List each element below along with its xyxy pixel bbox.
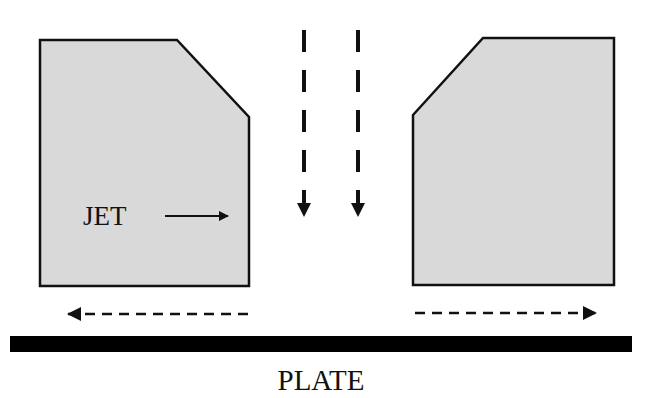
- plate-bar: [10, 336, 632, 352]
- jet-plate-diagram: JET PLATE: [0, 0, 667, 398]
- jet-label: JET: [83, 203, 127, 230]
- right-block: [413, 38, 614, 285]
- left-block: [40, 40, 249, 286]
- diagram-canvas: [0, 0, 667, 398]
- plate-label: PLATE: [0, 366, 642, 395]
